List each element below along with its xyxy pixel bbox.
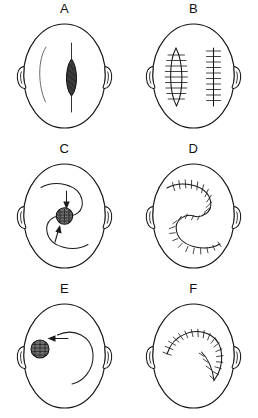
elliptical-lesion — [67, 59, 77, 96]
panel-a: A — [0, 0, 129, 139]
panel-c-illustration — [0, 154, 129, 279]
panel-a-illustration — [0, 14, 129, 139]
panel-d-illustration — [129, 154, 258, 279]
panel-f-illustration — [129, 294, 258, 418]
panel-e-illustration — [0, 294, 129, 418]
panel-e: E — [0, 280, 129, 418]
panel-f: F — [129, 280, 258, 418]
panel-b: B — [129, 0, 258, 139]
panel-b-illustration — [129, 14, 258, 139]
panel-d: D — [129, 140, 258, 279]
head-outline — [153, 24, 235, 128]
panel-c: C — [0, 140, 129, 279]
head-outline — [24, 24, 106, 128]
surgical-flap-figure: A B — [0, 0, 258, 418]
